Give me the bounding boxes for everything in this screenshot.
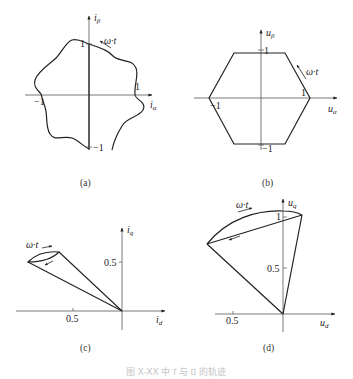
return-arrow-icon [45, 261, 53, 265]
axis-label-i-d: id [156, 314, 163, 327]
tick-label-y-half: 0.5 [104, 257, 117, 268]
voltage-vector-right [283, 215, 302, 314]
axis-label-i-alpha: iα [150, 99, 157, 112]
axis-label-u-q: uq [288, 197, 297, 210]
rotation-label: ω·t [26, 239, 39, 250]
tick-label-y-1: 1 [276, 211, 281, 222]
rotation-label: ω·t [306, 66, 319, 77]
axis-label-i-beta: iβ [94, 12, 101, 25]
voltage-vector-left [207, 244, 283, 314]
figure-canvas: 1 1 −1 −1 iβ iα ω·t (a) 1 1 −1 −1 uβ uα … [0, 0, 353, 379]
tick-label-x-neg1: −1 [210, 100, 221, 111]
rotation-arrow-icon [42, 246, 52, 248]
tick-label-y-half: 0.5 [267, 263, 280, 274]
panel-b: 1 1 −1 −1 uβ uα ω·t (b) [194, 27, 337, 189]
voltage-hexagon [209, 53, 310, 144]
current-sweep-lens [28, 252, 59, 262]
panel-label-d: (d) [263, 343, 274, 354]
tick-label-x-1: 1 [301, 87, 306, 98]
rotation-label: ω·t [236, 199, 249, 210]
tick-label-y-neg1: −1 [93, 142, 104, 153]
rotation-label: ω·t [104, 35, 117, 46]
tick-label-y-neg1: −1 [262, 143, 273, 154]
tick-label-x-neg1: −1 [34, 96, 45, 107]
tick-label-x-1: 1 [135, 81, 140, 92]
figure-caption: 图 X-XX 中 i⃗ 与 u⃗ 的轨迹 [126, 366, 226, 377]
panel-d: ω·t 1 0.5 0.5 uq ud (d) [207, 197, 335, 354]
tick-label-y-1: 1 [80, 38, 85, 49]
panel-c: ω·t 0.5 0.5 iq id (c) [16, 224, 165, 354]
panel-a: 1 1 −1 −1 iβ iα ω·t (a) [25, 12, 157, 189]
panel-label-c: (c) [80, 343, 91, 354]
axis-label-u-beta: uβ [266, 27, 275, 40]
tick-label-x-half: 0.5 [66, 313, 79, 324]
axis-label-i-q: iq [127, 224, 134, 237]
axis-label-u-alpha: uα [328, 103, 337, 116]
panel-label-a: (a) [80, 178, 91, 189]
panel-label-b: (b) [262, 178, 273, 189]
tick-label-x-half: 0.5 [226, 315, 239, 326]
tick-label-y-1: 1 [264, 45, 269, 56]
axis-label-u-d: ud [320, 317, 329, 330]
current-vector-lower [28, 262, 122, 311]
